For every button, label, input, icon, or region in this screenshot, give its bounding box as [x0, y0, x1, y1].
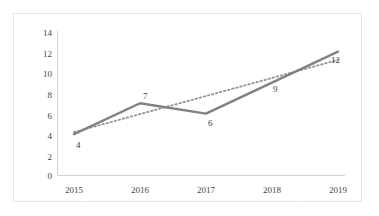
series-line-path [74, 52, 338, 135]
chart-plot-svg [0, 0, 379, 216]
data-label-2017: 6 [208, 119, 213, 128]
y-tick-14: 14 [34, 29, 52, 38]
x-tick-2019: 2019 [318, 186, 358, 195]
y-tick-2: 2 [34, 153, 52, 162]
x-tick-2017: 2017 [186, 186, 226, 195]
y-tick-6: 6 [34, 112, 52, 121]
data-label-2019: 12 [331, 56, 340, 65]
data-label-2018: 9 [273, 85, 278, 94]
data-label-2015: 4 [76, 141, 81, 150]
y-tick-0: 0 [34, 172, 52, 181]
y-tick-8: 8 [34, 91, 52, 100]
y-tick-10: 10 [34, 70, 52, 79]
data-label-2016: 7 [143, 92, 148, 101]
y-tick-4: 4 [34, 132, 52, 141]
x-tick-2016: 2016 [120, 186, 160, 195]
y-tick-12: 12 [34, 50, 52, 59]
line-chart-figure: 14 12 10 8 6 4 2 0 2015 2016 2017 2018 2… [0, 0, 379, 216]
x-tick-2018: 2018 [252, 186, 292, 195]
x-tick-2015: 2015 [54, 186, 94, 195]
